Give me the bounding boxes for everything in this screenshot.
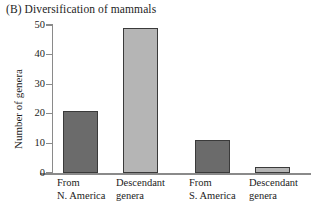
y-axis-line xyxy=(52,24,53,173)
x-category-label-line: N. America xyxy=(57,190,105,203)
bar xyxy=(123,28,158,173)
y-tick-label: 10 xyxy=(15,138,45,149)
figure-panel-b: (B) Diversification of mammals Number of… xyxy=(0,0,317,206)
bar xyxy=(63,111,98,173)
x-category-label-line: genera xyxy=(116,190,165,203)
x-category-label: Descendantgenera xyxy=(116,177,165,202)
x-category-label: FromS. America xyxy=(189,177,236,202)
bar xyxy=(195,140,230,173)
x-category-label-line: Descendant xyxy=(249,177,298,190)
y-tick-mark xyxy=(46,84,52,85)
y-tick-mark xyxy=(46,113,52,114)
x-axis-line xyxy=(40,173,311,175)
y-tick-label: 50 xyxy=(15,20,45,31)
x-category-label-line: From xyxy=(57,177,105,190)
y-tick-label: 40 xyxy=(15,49,45,60)
y-tick-mark xyxy=(46,54,52,55)
y-tick-label: 20 xyxy=(15,108,45,119)
y-tick-mark xyxy=(46,24,52,25)
bar xyxy=(255,167,290,173)
y-tick-mark xyxy=(46,172,52,173)
y-tick-label: 30 xyxy=(15,79,45,90)
x-category-label: FromN. America xyxy=(57,177,105,202)
y-tick-mark xyxy=(46,143,52,144)
x-category-label-line: Descendant xyxy=(116,177,165,190)
x-category-label: Descendantgenera xyxy=(249,177,298,202)
y-tick-label: 0 xyxy=(15,168,45,179)
plot-area: 01020304050 FromN. AmericaDescendantgene… xyxy=(0,0,317,206)
x-category-label-line: From xyxy=(189,177,236,190)
x-category-label-line: genera xyxy=(249,190,298,203)
x-category-label-line: S. America xyxy=(189,190,236,203)
